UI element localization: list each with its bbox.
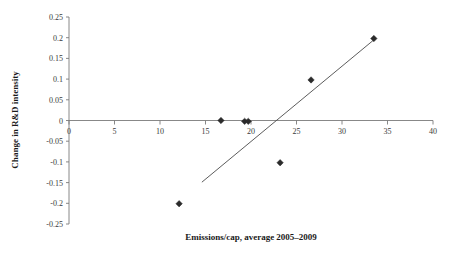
x-axis-title: Emissions/cap, average 2005–2009	[185, 232, 317, 242]
x-tick-label: 40	[429, 127, 437, 136]
y-tick-label: -0.1	[50, 158, 63, 167]
y-tick-label: 0	[59, 117, 63, 126]
trendline-segment	[202, 41, 373, 183]
chart-figure: -0.25-0.2-0.15-0.1-0.0500.050.10.150.20.…	[0, 0, 457, 253]
scatter-plot: -0.25-0.2-0.15-0.1-0.0500.050.10.150.20.…	[0, 0, 457, 253]
x-tick-labels: 0510152025303540	[67, 127, 437, 136]
x-tick-label: 15	[202, 127, 210, 136]
y-axis-title: Change in R&D intensity	[10, 71, 20, 169]
y-tick-label: -0.2	[50, 199, 63, 208]
y-tick-label: -0.05	[46, 137, 63, 146]
y-tick-label: 0.15	[49, 54, 63, 63]
x-tick-label: 20	[247, 127, 255, 136]
trendline	[202, 41, 373, 183]
x-tick-label: 0	[67, 127, 71, 136]
data-point-marker	[308, 77, 314, 83]
data-point-marker	[277, 160, 283, 166]
data-point-marker	[176, 201, 182, 207]
x-tick-label: 5	[113, 127, 117, 136]
data-points	[176, 35, 377, 207]
data-point-marker	[218, 117, 224, 123]
x-tick-label: 35	[384, 127, 392, 136]
data-point-marker	[245, 118, 251, 124]
y-tick-labels: -0.25-0.2-0.15-0.1-0.0500.050.10.150.20.…	[46, 13, 63, 229]
x-tick-label: 10	[156, 127, 164, 136]
y-tick-label: 0.2	[53, 34, 63, 43]
y-tick-label: -0.25	[46, 220, 63, 229]
y-tick-label: 0.05	[49, 96, 63, 105]
y-tick-label: -0.15	[46, 179, 63, 188]
x-tick-label: 30	[338, 127, 346, 136]
x-tick-label: 25	[293, 127, 301, 136]
y-tick-label: 0.25	[49, 13, 63, 22]
data-point-marker	[371, 35, 377, 41]
y-tick-label: 0.1	[53, 75, 63, 84]
